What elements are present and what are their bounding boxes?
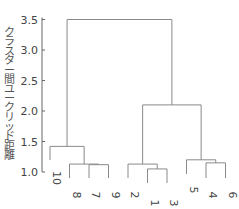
dendrogram-branch bbox=[70, 164, 99, 178]
dendrogram-branch bbox=[143, 105, 202, 164]
y-tick-label: 2.5 bbox=[21, 75, 39, 88]
dendrogram-branch bbox=[148, 169, 168, 183]
y-axis-label-char: 離 bbox=[4, 148, 15, 162]
dendrogram-chart: 1.01.52.02.53.03.5クラスター間ユークリッド距離10879213… bbox=[0, 0, 238, 209]
dendrogram-branch bbox=[206, 163, 226, 178]
leaf-label: 2 bbox=[128, 192, 141, 199]
leaf-label: 5 bbox=[187, 187, 200, 194]
y-tick-label: 1.5 bbox=[21, 136, 39, 149]
leaf-label: 8 bbox=[70, 192, 83, 199]
leaf-label: 6 bbox=[226, 192, 239, 199]
y-tick-label: 1.0 bbox=[21, 166, 39, 179]
leaf-label: 3 bbox=[167, 200, 180, 207]
y-tick-label: 3.0 bbox=[21, 44, 39, 57]
dendrogram-branch bbox=[89, 165, 109, 178]
leaf-label: 1 bbox=[148, 200, 161, 207]
dendrogram-branch bbox=[187, 160, 216, 174]
dendrogram-branch bbox=[50, 146, 84, 164]
leaf-label: 10 bbox=[50, 171, 63, 185]
leaf-label: 9 bbox=[109, 192, 122, 199]
leaf-label: 7 bbox=[89, 192, 102, 199]
dendrogram-branch bbox=[67, 20, 172, 147]
y-tick-label: 2.0 bbox=[21, 105, 39, 118]
dendrogram-branch bbox=[128, 164, 157, 178]
leaf-label: 4 bbox=[206, 192, 219, 199]
y-tick-label: 3.5 bbox=[21, 14, 39, 27]
